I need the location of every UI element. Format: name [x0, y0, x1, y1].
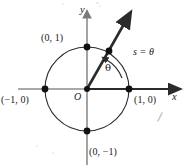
origin-label: O — [74, 92, 81, 102]
point-top-dot — [84, 44, 91, 51]
point-left-label: (−1, 0) — [1, 95, 29, 105]
point-right-dot — [126, 86, 133, 93]
terminal-ray — [87, 24, 124, 89]
point-left-dot — [42, 86, 49, 93]
point-terminal-dot — [106, 48, 113, 55]
diagram-canvas — [0, 0, 185, 168]
y-axis-label: y — [80, 5, 85, 16]
point-top-label: (0, 1) — [41, 33, 63, 43]
point-bottom-dot — [84, 128, 91, 135]
arc-length-label: s = θ — [133, 47, 154, 57]
point-origin-dot — [84, 86, 90, 92]
stray-mark — [158, 113, 162, 121]
angle-theta-label: θ — [105, 63, 111, 73]
x-axis-label: x — [172, 92, 177, 103]
point-bottom-label: (0, −1) — [89, 147, 117, 157]
point-right-label: (1, 0) — [134, 95, 156, 105]
unit-circle-diagram: y x O (0, 1) (1, 0) (−1, 0) (0, −1) s = … — [0, 0, 185, 168]
